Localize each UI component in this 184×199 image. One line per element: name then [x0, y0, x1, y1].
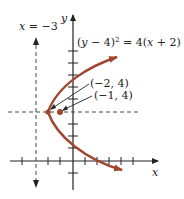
y-axis-label: y: [60, 12, 68, 25]
focus-leader-arrow-icon: [62, 106, 68, 112]
vertex-point: [45, 109, 50, 114]
equation-label: (y − 4)2 = 4(x + 2): [77, 36, 181, 49]
focus-point: [57, 109, 63, 115]
x-axis-label: x: [152, 166, 159, 179]
directrix-arrow-up-icon: [33, 37, 39, 45]
parabola-diagram: x = −3 y x (y − 4)2 = 4(x + 2) (−2, 4) (…: [0, 0, 184, 199]
directrix-label: x = −3: [19, 20, 58, 33]
focus-label: (−1, 4): [94, 89, 133, 102]
directrix-arrow-down-icon: [33, 180, 39, 188]
